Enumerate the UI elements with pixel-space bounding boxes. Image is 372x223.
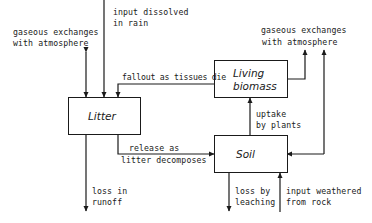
uptake-label-line2: by plants (256, 120, 301, 131)
litter-label: Litter (88, 110, 116, 122)
weathering-label-line1: input weathered (286, 186, 361, 197)
leaching-label-line2: leaching (235, 197, 275, 208)
biomass-atmosphere-arrow (287, 50, 305, 79)
rain-input-label-line2: in rain (113, 18, 148, 29)
runoff-label-line2: runoff (92, 197, 122, 208)
fallout-label: fallout as tissues die (122, 72, 226, 83)
release-label-line2: litter decomposes (121, 155, 207, 166)
litter-box: Litter (68, 97, 141, 135)
soil-box: Soil (214, 135, 288, 173)
living-biomass-label-line2: biomass (233, 80, 277, 92)
runoff-label-line1: loss in (92, 186, 127, 197)
soil-label: Soil (236, 148, 255, 160)
uptake-label-line1: uptake (256, 109, 286, 120)
biomass-atmosphere-label-line2: with atmosphere (262, 37, 337, 48)
leaching-label-line1: loss by (235, 186, 270, 197)
weathering-label-line2: from rock (286, 197, 331, 208)
living-biomass-label-line1: Living (233, 67, 264, 79)
litter-atmosphere-label-line2: with atmosphere (13, 38, 88, 49)
litter-atmosphere-label-line1: gaseous exchanges (13, 27, 99, 38)
rain-input-label-line1: input dissolved (113, 7, 188, 18)
fallout-arrow (118, 84, 214, 97)
biomass-atmosphere-label-line1: gaseous exchanges (261, 25, 347, 36)
release-label-line1: release as (129, 143, 179, 154)
